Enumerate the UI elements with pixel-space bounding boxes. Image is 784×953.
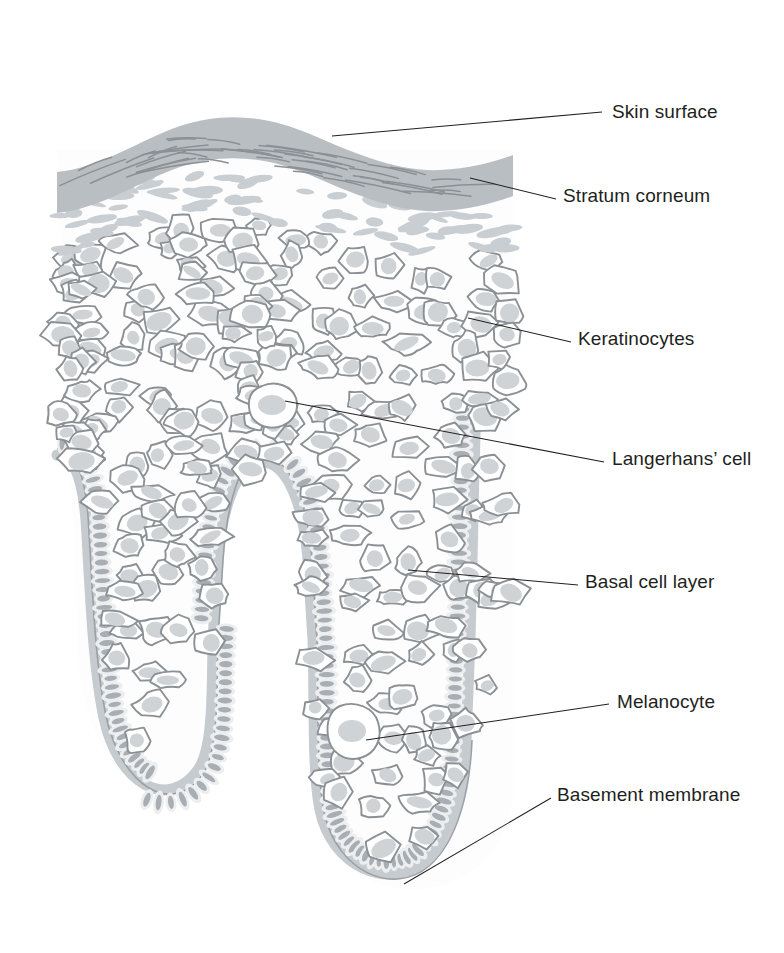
langerhans-cell	[249, 384, 297, 428]
leader-skin-surface	[332, 112, 602, 136]
label-keratinocytes: Keratinocytes	[578, 328, 694, 349]
label-basal-cell-layer: Basal cell layer	[585, 571, 715, 592]
label-basement-membrane: Basement membrane	[557, 784, 740, 805]
melanocyte	[328, 704, 380, 759]
keratinocyte-nucleus	[384, 296, 405, 307]
label-group: Skin surfaceStratum corneumKeratinocytes…	[557, 101, 751, 805]
epidermis-diagram: Skin surfaceStratum corneumKeratinocytes…	[0, 0, 784, 953]
label-langerhans-cell: Langerhans’ cell	[612, 448, 751, 469]
label-stratum-corneum: Stratum corneum	[563, 185, 710, 206]
label-skin-surface: Skin surface	[612, 101, 718, 122]
figure-canvas: Skin surfaceStratum corneumKeratinocytes…	[0, 0, 784, 953]
label-melanocyte: Melanocyte	[617, 691, 715, 712]
